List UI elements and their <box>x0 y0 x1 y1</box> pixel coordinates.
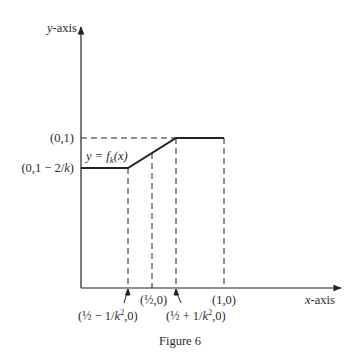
y-tick-label-lower: (0,1 − 2/k) <box>21 161 74 175</box>
y-axis-label: y-axis <box>45 21 77 35</box>
figure-caption: Figure 6 <box>159 334 201 348</box>
y-tick-label-1: (0,1) <box>50 131 74 145</box>
x-tick-label-right: (½ + 1/k2,0) <box>166 308 226 323</box>
x-tick-label-one: (1,0) <box>212 293 236 307</box>
figure-canvas: y-axis x-axis (0,1) (0,1 − 2/k) y = fk(x… <box>0 0 359 356</box>
x-axis-label: x-axis <box>304 293 335 307</box>
x-tick-label-left: (½ − 1/k2,0) <box>78 308 138 323</box>
function-label: y = fk(x) <box>84 149 128 165</box>
x-tick-label-half: (½,0) <box>140 293 167 307</box>
